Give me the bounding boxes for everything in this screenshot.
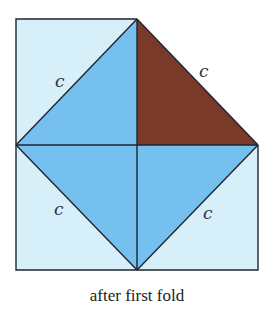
- label-c-top-right: c: [199, 61, 209, 81]
- caption: after first fold: [90, 286, 185, 305]
- label-c-top-left: c: [55, 71, 65, 91]
- fold-diagram: c c c c after first fold: [0, 0, 273, 310]
- label-c-bottom-right: c: [203, 203, 213, 223]
- label-c-bottom-left: c: [54, 199, 64, 219]
